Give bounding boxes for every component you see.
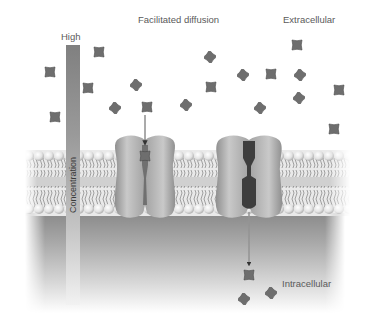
solute-particle-icon xyxy=(333,84,345,96)
solute-particle-icon xyxy=(265,287,277,299)
intracellular-label: Intracellular xyxy=(282,278,331,289)
solute-particle-icon xyxy=(141,101,153,113)
solute-particle-icon xyxy=(93,46,105,58)
solute-particle-icon xyxy=(254,102,266,114)
solute-particle-icon xyxy=(204,51,216,63)
solute-particle-icon xyxy=(293,92,305,104)
solute-particle-icon xyxy=(49,111,61,123)
channel-proteins xyxy=(0,0,370,317)
solute-particle-icon xyxy=(265,68,277,80)
solute-particle-icon xyxy=(291,39,303,51)
solute-particle-icon xyxy=(243,269,255,281)
solute-particle-icon xyxy=(109,102,121,114)
solute-particle-icon xyxy=(237,69,249,81)
channel-protein-1 xyxy=(115,136,175,218)
solute-particle-icon xyxy=(139,150,151,162)
solute-particle-icon xyxy=(130,79,142,91)
solute-particle-icon xyxy=(238,293,250,305)
solute-particle-icon xyxy=(82,82,94,94)
solute-particle-icon xyxy=(180,99,192,111)
solute-particle-icon xyxy=(294,69,306,81)
solute-particle-icon xyxy=(205,81,217,93)
facilitated-diffusion-diagram: Facilitated diffusion Extracellular High xyxy=(0,0,370,317)
channel-protein-2 xyxy=(216,136,282,218)
solute-particle-icon xyxy=(44,66,56,78)
solute-particle-icon xyxy=(328,123,340,135)
